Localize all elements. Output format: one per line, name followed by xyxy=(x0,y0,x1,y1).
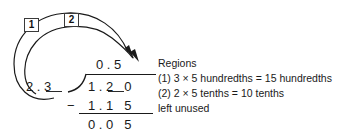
notes-heading: Regions xyxy=(158,56,361,71)
notes-line-2: (2) 2 × 5 tenths = 10 tenths xyxy=(158,86,361,101)
step-marker-2[interactable]: 2 xyxy=(64,13,79,27)
step-2-arc xyxy=(25,26,133,94)
step-marker-1[interactable]: 1 xyxy=(24,18,39,32)
long-division-illustration: 0 . 5 2 . 3 1 . 2 0 − 1 . 1 5 0 . 0 5 xyxy=(0,0,361,134)
notes-line-1: (1) 3 × 5 hundredths = 15 hundredths xyxy=(158,71,361,86)
division-problem: 0 . 5 2 . 3 1 . 2 0 − 1 . 1 5 0 . 0 5 xyxy=(0,0,160,134)
notes-line-3: left unused xyxy=(158,101,361,116)
notes-panel: Regions (1) 3 × 5 hundredths = 15 hundre… xyxy=(158,56,361,116)
